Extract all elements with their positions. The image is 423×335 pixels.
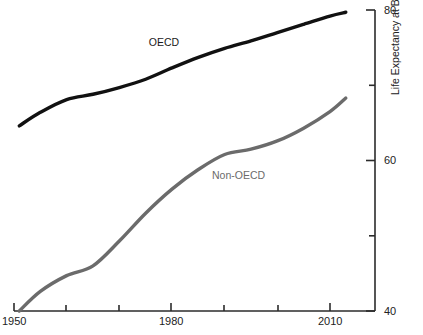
chart-plot-area — [0, 0, 423, 335]
series-label-non-oecd: Non-OECD — [212, 169, 265, 181]
y-axis-ticks — [366, 10, 375, 311]
y-tick-label-60: 60 — [384, 154, 396, 166]
series-label-oecd: OECD — [140, 36, 188, 48]
x-axis-ticks — [14, 303, 330, 311]
x-tick-label-1950: 1950 — [2, 315, 26, 327]
y-axis-title: Life Expectancy at Birth, y — [389, 0, 401, 95]
x-tick-label-1980: 1980 — [159, 315, 183, 327]
series-line-non-oecd — [19, 98, 346, 311]
y-tick-label-40: 40 — [384, 305, 396, 317]
series-line-oecd — [19, 12, 346, 126]
axis-lines — [14, 10, 375, 311]
x-tick-label-2010: 2010 — [318, 315, 342, 327]
life-expectancy-chart: 1950 1980 2010 80 60 40 Life Expectancy … — [0, 0, 423, 335]
